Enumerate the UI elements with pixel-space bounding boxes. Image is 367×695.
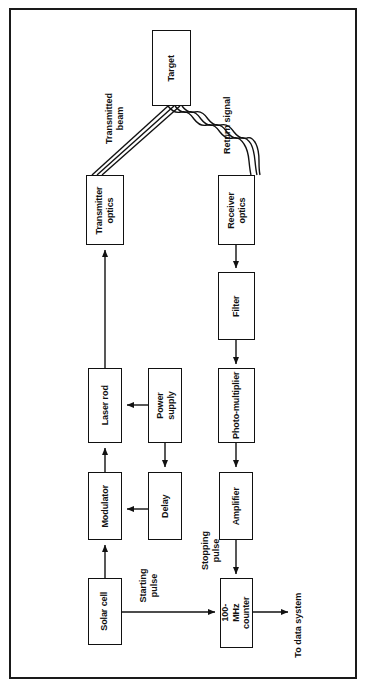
node-receiver-optics-label: Receiver optics xyxy=(226,192,247,229)
node-delay-label: Delay xyxy=(160,494,171,518)
label-to-data-system: To data system xyxy=(258,585,338,665)
label-return-signal: Return signal xyxy=(197,95,257,155)
node-solar-cell-label: Solar cell xyxy=(100,592,111,631)
node-solar-cell[interactable]: Solar cell xyxy=(88,578,122,645)
node-photo-multiplier[interactable]: Photo-multiplier xyxy=(218,368,255,443)
node-delay[interactable]: Delay xyxy=(148,472,182,540)
node-laser-rod[interactable]: Laser rod xyxy=(88,368,122,443)
node-receiver-optics[interactable]: Receiver optics xyxy=(218,175,255,245)
diagram-page: Target Transmitter optics Receiver optic… xyxy=(0,0,367,695)
label-return-signal-text: Return signal xyxy=(222,96,233,154)
label-starting-pulse: Starting pulse xyxy=(118,555,178,615)
node-target[interactable]: Target xyxy=(152,30,191,106)
node-modulator-label: Modulator xyxy=(100,485,111,528)
node-counter-label: 100-MHz counter xyxy=(221,597,253,629)
label-transmitted-beam: Transmitted beam xyxy=(84,88,144,148)
label-stopping-pulse: Stopping pulse xyxy=(180,520,240,580)
node-laser-rod-label: Laser rod xyxy=(100,385,111,425)
node-transmitter-optics-label: Transmitter optics xyxy=(95,186,116,234)
label-transmitted-beam-text: Transmitted beam xyxy=(104,88,125,148)
label-starting-pulse-text: Starting pulse xyxy=(137,568,158,602)
label-to-data-system-text: To data system xyxy=(293,593,304,658)
node-filter[interactable]: Filter xyxy=(218,272,255,340)
label-stopping-pulse-text: Stopping pulse xyxy=(200,531,221,570)
node-transmitter-optics[interactable]: Transmitter optics xyxy=(86,175,124,245)
node-target-label: Target xyxy=(166,55,177,81)
node-counter[interactable]: 100-MHz counter xyxy=(220,578,253,648)
node-photo-multiplier-label: Photo-multiplier xyxy=(231,372,242,439)
node-power-supply-label: Power supply xyxy=(155,391,176,419)
node-modulator[interactable]: Modulator xyxy=(88,472,122,540)
node-power-supply[interactable]: Power supply xyxy=(148,368,182,443)
node-filter-label: Filter xyxy=(231,295,242,316)
